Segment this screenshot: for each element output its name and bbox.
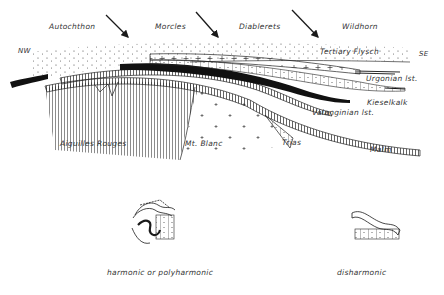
label-nw: NW	[18, 47, 31, 55]
label-aiguilles-rouges: Aiguilles Rouges	[60, 139, 127, 148]
arrow-icon	[106, 10, 318, 37]
harmonic-fold-sketch	[132, 200, 175, 243]
label-se: SE	[419, 50, 428, 58]
label-harmonic: harmonic or polyharmonic	[107, 268, 213, 277]
label-disharmonic: disharmonic	[337, 268, 386, 277]
label-valanginian: Valanginian lst.	[312, 108, 374, 117]
label-trias: Trias	[282, 138, 301, 147]
label-morcles: Morcles	[155, 22, 186, 31]
label-tertiary-flysch: Tertiary Flysch	[320, 47, 379, 56]
label-malm: Malm	[370, 145, 392, 154]
label-diablerets: Diablerets	[239, 22, 280, 31]
label-urgonian: Urgonian lst.	[366, 74, 418, 83]
geological-diagram: Autochthon Morcles Diablerets Wildhorn N…	[0, 0, 444, 295]
label-wildhorn: Wildhorn	[342, 22, 378, 31]
label-autochthon: Autochthon	[49, 22, 95, 31]
label-kieselkalk: Kieselkalk	[367, 98, 408, 107]
disharmonic-fold-sketch	[352, 212, 400, 239]
label-mt-blanc: Mt. Blanc	[185, 139, 223, 148]
aiguilles-rouges-basement	[45, 82, 200, 160]
